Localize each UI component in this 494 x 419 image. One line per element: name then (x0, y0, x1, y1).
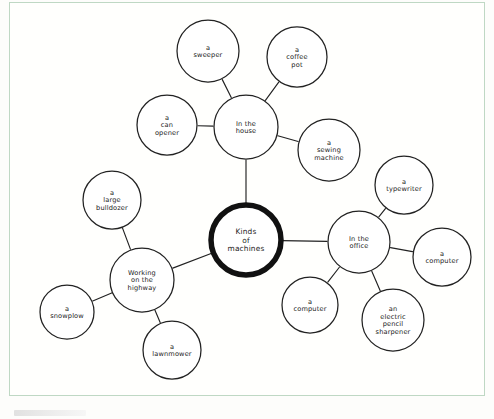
node-office[interactable]: In theoffice (328, 211, 390, 273)
node-label-highway: Workingon thehighway (128, 269, 157, 293)
nodes-layer: KindsofmachinesIn thehouseasweeperacoffe… (40, 20, 471, 379)
node-label-line: a (295, 46, 299, 54)
edge-highway-to-lawnmower (155, 310, 160, 322)
node-label-line: an (389, 305, 398, 313)
node-label-line: electric (380, 313, 406, 321)
node-label-line: a (110, 189, 114, 197)
node-label-line: a (206, 44, 210, 52)
node-label-line: a (65, 305, 69, 313)
node-pencil-sharpener[interactable]: anelectricpencilsharpener (362, 289, 424, 351)
edge-house-to-coffee-pot (265, 82, 278, 100)
node-highway[interactable]: Workingon thehighway (110, 248, 174, 312)
node-label-line: pencil (383, 320, 404, 328)
node-house[interactable]: In thehouse (214, 95, 278, 159)
node-label-line: a (170, 343, 174, 351)
node-label-line: large (103, 196, 120, 204)
edge-office-to-computer-lower (328, 267, 340, 282)
node-label-house: In thehouse (236, 120, 257, 136)
edge-center-to-highway (173, 253, 213, 268)
node-can-opener[interactable]: acanopener (137, 95, 197, 155)
node-sweeper[interactable]: asweeper (177, 20, 239, 82)
mind-map-canvas: KindsofmachinesIn thehouseasweeperacoffe… (0, 0, 494, 419)
node-label-office: In theoffice (349, 235, 369, 251)
edge-house-to-sweeper (222, 80, 231, 98)
edge-highway-to-large-bulldozer (123, 228, 131, 249)
node-label-line: a (308, 298, 312, 306)
node-label-line: house (236, 127, 257, 135)
node-snowplow[interactable]: asnowplow (40, 285, 94, 339)
edge-office-to-pencil-sharpener (372, 271, 380, 290)
node-large-bulldozer[interactable]: alargebulldozer (83, 171, 141, 229)
node-label-line: snowplow (50, 312, 84, 320)
node-label-line: highway (128, 284, 157, 292)
node-label-line: computer (426, 257, 459, 265)
node-center[interactable]: Kindsofmachines (211, 205, 281, 275)
node-label-line: sweeper (194, 51, 223, 59)
node-coffee-pot[interactable]: acoffeepot (267, 27, 327, 87)
node-label-line: a (327, 139, 331, 147)
edge-center-to-office (282, 241, 327, 242)
node-label-line: machine (314, 154, 343, 162)
node-label-line: can (161, 121, 173, 129)
node-label-line: typewriter (386, 185, 422, 193)
node-label-line: machines (228, 244, 265, 253)
node-label-line: a (402, 178, 406, 186)
node-label-line: Working (128, 269, 156, 277)
node-lawnmower[interactable]: alawnmower (143, 321, 201, 379)
node-label-line: office (349, 242, 368, 250)
node-label-line: opener (155, 129, 179, 137)
edge-office-to-computer-office (390, 248, 412, 252)
node-label-line: pot (291, 61, 303, 69)
node-label-line: In the (236, 120, 256, 128)
node-label-line: coffee (286, 53, 307, 61)
edge-highway-to-snowplow (93, 293, 112, 301)
page: KindsofmachinesIn thehouseasweeperacoffe… (0, 0, 494, 419)
edge-office-to-typewriter (379, 209, 386, 217)
node-label-line: a (440, 250, 444, 258)
node-label-line: sharpener (376, 328, 411, 336)
node-label-line: a (165, 114, 169, 122)
node-label-line: computer (294, 305, 327, 313)
node-typewriter[interactable]: atypewriter (375, 156, 433, 214)
node-label-line: on the (131, 276, 153, 284)
node-computer-office[interactable]: acomputer (413, 228, 471, 286)
node-label-line: bulldozer (96, 204, 128, 212)
edge-house-to-sewing-machine (278, 136, 298, 142)
node-label-line: sewing (317, 146, 341, 154)
node-computer-lower[interactable]: acomputer (282, 277, 338, 333)
node-label-line: In the (349, 235, 369, 243)
node-label-line: lawnmower (152, 350, 192, 358)
node-sewing-machine[interactable]: asewingmachine (298, 119, 360, 181)
